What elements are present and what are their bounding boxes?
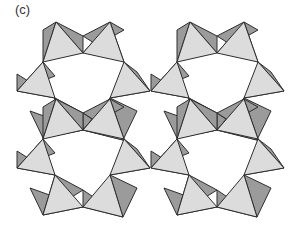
tetrahedra-sheet-diagram [0, 0, 302, 235]
